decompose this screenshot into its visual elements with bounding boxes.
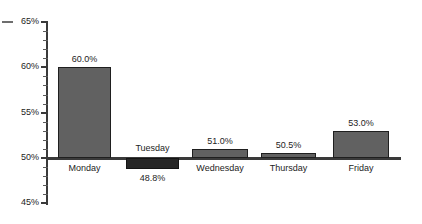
y-axis-minor-tick — [43, 31, 48, 32]
y-axis-tick-label-text: 45% — [21, 198, 39, 207]
y-axis-minor-tick — [43, 95, 48, 96]
y-axis-minor-tick — [43, 85, 48, 86]
y-axis-tick-label: 65% — [0, 17, 39, 26]
bar-friday[interactable] — [333, 131, 389, 158]
y-axis-major-tick — [41, 157, 48, 159]
bar-value-label-monday: 60.0% — [46, 54, 123, 64]
y-axis-minor-tick — [43, 185, 48, 186]
y-axis-major-tick — [41, 112, 48, 114]
y-axis-tick-label: 45% — [0, 198, 39, 207]
bar-wednesday[interactable] — [192, 149, 248, 158]
y-axis-minor-tick — [43, 140, 48, 141]
bar-chart: 65%60%55%50%45% 60.0%Monday48.8%Tuesday5… — [0, 0, 422, 224]
category-label-monday: Monday — [44, 163, 125, 173]
y-axis-minor-tick — [43, 176, 48, 177]
category-label-thursday: Thursday — [247, 163, 330, 173]
bar-value-label-wednesday: 51.0% — [180, 136, 260, 146]
bar-thursday[interactable] — [261, 153, 316, 158]
y-axis-minor-tick — [43, 104, 48, 105]
y-axis-minor-tick — [43, 149, 48, 150]
y-axis-tick-label-text: 65% — [21, 17, 39, 26]
category-label-friday: Friday — [319, 163, 403, 173]
y-axis-tick-label-text: 60% — [21, 62, 39, 71]
y-axis-minor-tick — [43, 131, 48, 132]
bar-value-label-tuesday: 48.8% — [114, 173, 191, 183]
y-axis-tick-label: 60% — [0, 62, 39, 71]
y-axis-minor-tick — [43, 194, 48, 195]
y-axis-minor-tick — [43, 40, 48, 41]
y-axis-minor-tick — [43, 76, 48, 77]
bar-value-label-friday: 53.0% — [321, 118, 401, 128]
bar-monday[interactable] — [58, 67, 111, 158]
y-axis-tick-label-text: 55% — [21, 108, 39, 117]
y-axis-major-tick — [41, 66, 48, 68]
y-axis-major-tick — [41, 202, 48, 204]
y-axis-tick-label: 55% — [0, 108, 39, 117]
y-axis-minor-tick — [43, 49, 48, 50]
bar-tuesday[interactable] — [126, 158, 179, 169]
y-axis-minor-tick — [43, 122, 48, 123]
y-axis-major-tick — [41, 21, 48, 23]
y-axis-tick-label-text: 50% — [21, 153, 39, 162]
bar-value-label-thursday: 50.5% — [249, 140, 328, 150]
y-axis-tick-label: 50% — [0, 153, 39, 162]
